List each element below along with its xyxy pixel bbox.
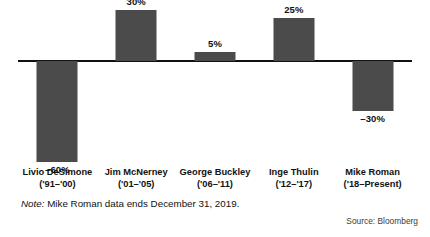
bar-group: –60% (22, 10, 92, 162)
bar (116, 10, 157, 61)
category-name: Jim McNerney (91, 166, 181, 178)
note-prefix: Note: (21, 198, 44, 209)
bar-chart-figure: –60%30%5%25%–30% Livio DeSimone('91–'00)… (0, 0, 430, 237)
bar-group: 5% (180, 10, 250, 162)
bar (273, 18, 314, 60)
category-label-2: Jim McNerney('01–'05) (91, 166, 181, 190)
category-label-4: Inge Thulin('12–'17) (249, 166, 339, 190)
bar-value-label: –30% (360, 113, 385, 124)
category-label-1: Livio DeSimone('91–'00) (12, 166, 102, 190)
category-axis-labels: Livio DeSimone('91–'00)Jim McNerney('01–… (18, 166, 412, 198)
category-name: Mike Roman (328, 166, 418, 178)
category-years: ('91–'00) (12, 178, 102, 190)
category-label-3: George Buckley('06–'11) (170, 166, 260, 190)
bar-value-label: 30% (127, 0, 146, 7)
category-years: ('06–'11) (170, 178, 260, 190)
bar-value-label: 25% (284, 4, 303, 15)
category-name: Livio DeSimone (12, 166, 102, 178)
category-years: ('01–'05) (91, 178, 181, 190)
category-name: Inge Thulin (249, 166, 339, 178)
chart-source: Source: Bloomberg (346, 216, 418, 226)
note-body: Mike Roman data ends December 31, 2019. (44, 198, 239, 209)
bar-group: 30% (101, 10, 171, 162)
bar-group: 25% (259, 10, 329, 162)
category-years: ('12–'17) (249, 178, 339, 190)
bar-group: –30% (338, 10, 408, 162)
plot-area: –60%30%5%25%–30% (18, 10, 412, 162)
bar (352, 61, 393, 112)
bar-value-label: 5% (208, 38, 222, 49)
bar (195, 52, 236, 60)
bar (37, 61, 78, 162)
chart-note: Note: Mike Roman data ends December 31, … (21, 198, 239, 209)
category-label-5: Mike Roman('18–Present) (328, 166, 418, 190)
category-years: ('18–Present) (328, 178, 418, 190)
category-name: George Buckley (170, 166, 260, 178)
